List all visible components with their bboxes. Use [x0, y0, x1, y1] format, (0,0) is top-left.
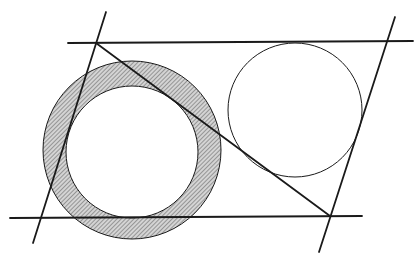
bottom-line: [10, 216, 362, 218]
top-line: [68, 41, 413, 43]
geometry-diagram: [0, 0, 418, 257]
shaded-annulus: [43, 61, 221, 239]
inscribed-circle: [228, 43, 362, 177]
diagram-canvas: [0, 0, 418, 257]
diagonal-line: [96, 43, 330, 216]
